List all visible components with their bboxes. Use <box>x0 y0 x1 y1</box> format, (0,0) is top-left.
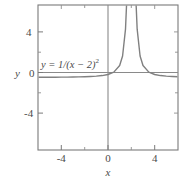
curve-equation-base: y = 1/(x − 2) <box>41 59 95 70</box>
y-tick-label-minus4: -4 <box>24 108 33 119</box>
chart-figure: y = 1/(x − 2)2 -4 0 4 x 4 0 -4 y <box>0 0 190 181</box>
x-tick-label-minus4: -4 <box>57 153 66 164</box>
x-tick-label-4: 4 <box>152 153 158 164</box>
curve-equation-exponent: 2 <box>95 57 99 65</box>
x-tick-label-0: 0 <box>105 153 111 164</box>
curve-equation-label: y = 1/(x − 2)2 <box>41 58 99 70</box>
y-tick-label-4: 4 <box>26 26 32 37</box>
y-tick-label-0: 0 <box>29 67 35 78</box>
y-axis-title: y <box>15 67 20 78</box>
x-axis-title: x <box>106 167 111 178</box>
